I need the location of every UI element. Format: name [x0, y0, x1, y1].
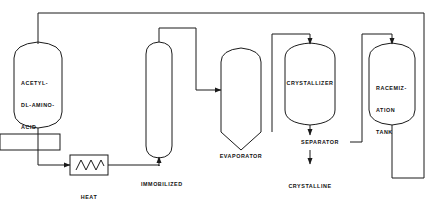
feed-tank-label-line-3: ACID — [21, 124, 65, 131]
column-shell — [146, 42, 172, 158]
separator-label: SEPARATOR — [290, 139, 350, 146]
column-label: IMMOBILIZED AMINOACYLASE COLUMN — [141, 166, 211, 203]
racemization-tank-label-line-3: TANK — [376, 129, 416, 136]
racemization-tank-label: RACEMIZ- ATION TANK — [376, 70, 416, 151]
feed-tank-label-line-2: DL-AMINO- — [21, 102, 65, 109]
evaporator-label: EVAPORATOR — [207, 153, 275, 160]
crystallizer-label: CRYSTALLIZER — [286, 80, 334, 87]
product-stream-label-line-1: CRYSTALLINE — [272, 183, 348, 190]
heat-exchanger-coil-icon — [76, 160, 104, 170]
column-label-line-1: IMMOBILIZED — [141, 181, 211, 188]
evaporator-shell — [221, 48, 261, 150]
feed-tank-label: ACETYL- DL-AMINO- ACID — [21, 65, 65, 146]
racemization-tank-label-line-1: RACEMIZ- — [376, 85, 416, 92]
racemization-tank-label-line-2: ATION — [376, 107, 416, 114]
feed-tank-label-line-1: ACETYL- — [21, 80, 65, 87]
process-flow-diagram: ACETYL- DL-AMINO- ACID HEAT EXCHANGER IM… — [0, 0, 432, 203]
heat-exchanger-label: HEAT EXCHANGER — [59, 179, 119, 203]
pipe-column-to-evaporator — [159, 28, 213, 90]
heat-exchanger-label-line-1: HEAT — [59, 194, 119, 201]
product-stream-label: CRYSTALLINE L-AMINO ACID — [272, 168, 348, 203]
